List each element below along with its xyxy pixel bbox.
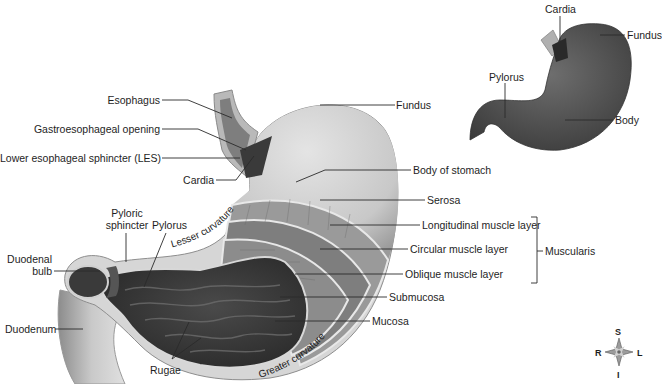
label-mucosa: Mucosa — [372, 315, 409, 327]
compass-superior: S — [615, 326, 621, 338]
label-cardia: Cardia — [150, 174, 214, 186]
label-muscularis: Muscularis — [545, 245, 595, 257]
label-rugae: Rugae — [150, 364, 181, 376]
label-submucosa: Submucosa — [389, 291, 444, 303]
compass-right: R — [595, 347, 602, 359]
label-pylorus: Pylorus — [152, 219, 187, 231]
label-gastroesophageal-opening: Gastroesophageal opening — [10, 123, 160, 135]
label-serosa: Serosa — [427, 194, 460, 206]
inset-stomach — [470, 24, 631, 151]
label-pyloric-sphincter-line2: sphincter — [104, 219, 150, 231]
label-circular-muscle: Circular muscle layer — [410, 243, 508, 255]
label-duodenal-bulb-line1: Duodenal — [0, 253, 52, 265]
inset-label-cardia: Cardia — [545, 3, 576, 15]
inset-label-pylorus: Pylorus — [489, 71, 524, 83]
label-oblique-muscle: Oblique muscle layer — [405, 268, 503, 280]
label-duodenal-bulb-line2: bulb — [0, 265, 52, 277]
label-duodenum: Duodenum — [5, 323, 56, 335]
label-fundus: Fundus — [396, 99, 431, 111]
label-body-of-stomach: Body of stomach — [413, 164, 491, 176]
label-pyloric-sphincter-line1: Pyloric — [104, 207, 150, 219]
inset-label-body: Body — [615, 114, 639, 126]
label-les: Lower esophageal sphincter (LES) — [0, 152, 160, 164]
compass-left: L — [637, 347, 643, 359]
label-esophagus: Esophagus — [60, 94, 160, 106]
label-longitudinal-muscle: Longitudinal muscle layer — [422, 219, 540, 231]
compass-rose-icon — [605, 338, 633, 366]
compass-inferior: I — [617, 369, 620, 381]
inset-label-fundus: Fundus — [627, 29, 662, 41]
